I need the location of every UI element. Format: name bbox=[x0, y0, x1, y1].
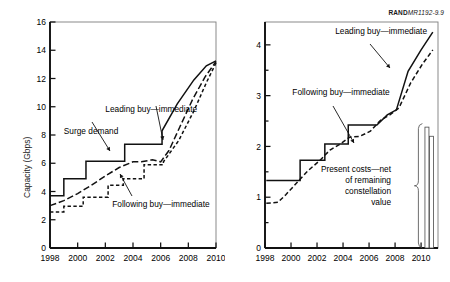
y-tick-label: 8 bbox=[41, 130, 46, 140]
figure-root: RANDMR1192-9.9 Capacity (Gbps) 024681012… bbox=[0, 0, 450, 282]
y-tick-label: 6 bbox=[41, 158, 46, 168]
y-tick-label: 2 bbox=[256, 142, 261, 152]
x-tick-label: 2010 bbox=[412, 253, 431, 263]
y-tick-label: 3 bbox=[256, 91, 261, 101]
chart-annotation: Following buy—immediate bbox=[292, 87, 390, 97]
chart-annotation: Leading buy—immediate bbox=[105, 104, 197, 114]
y-tick-label: 12 bbox=[37, 74, 47, 84]
present-costs-brace bbox=[414, 124, 422, 248]
x-tick-label: 2002 bbox=[308, 253, 327, 263]
x-tick-label: 2000 bbox=[282, 253, 301, 263]
chart-annotation: Surge demand bbox=[64, 126, 119, 136]
chart-panel-cumulative-cost: Cumulative ($ billion FY'98) 01234199820… bbox=[225, 0, 450, 282]
x-tick-label: 2004 bbox=[124, 253, 143, 263]
x-tick-label: 1998 bbox=[256, 253, 275, 263]
plot-frame bbox=[265, 22, 438, 248]
y-tick-label: 14 bbox=[37, 45, 47, 55]
x-tick-label: 2002 bbox=[96, 253, 115, 263]
chart-annotation: value bbox=[371, 197, 391, 207]
present-cost-bar-leading bbox=[425, 127, 429, 248]
chart-panel-capacity: Capacity (Gbps) 024681012141619982000200… bbox=[0, 0, 225, 282]
series-line bbox=[50, 63, 216, 212]
y-tick-label: 10 bbox=[37, 102, 47, 112]
leader-leading-buy-b bbox=[370, 44, 390, 68]
cumulative-cost-plot: 012341998200020022004200620082010Leading… bbox=[225, 0, 450, 282]
chart-annotation: of remaining bbox=[345, 175, 391, 185]
x-tick-label: 2000 bbox=[68, 253, 87, 263]
y-tick-label: 2 bbox=[41, 215, 46, 225]
chart-annotation: Present costs—net bbox=[321, 164, 392, 174]
y-tick-label: 4 bbox=[41, 187, 46, 197]
x-tick-label: 2008 bbox=[386, 253, 405, 263]
chart-annotation: Following buy—immediate bbox=[112, 199, 210, 209]
x-tick-label: 2006 bbox=[151, 253, 170, 263]
x-tick-label: 2008 bbox=[179, 253, 198, 263]
present-cost-bar-following bbox=[429, 136, 433, 248]
y-tick-label: 1 bbox=[256, 192, 261, 202]
y-tick-label: 4 bbox=[256, 40, 261, 50]
x-tick-label: 2010 bbox=[207, 253, 225, 263]
chart-annotation: Leading buy—immediate bbox=[335, 26, 427, 36]
y-tick-label: 16 bbox=[37, 17, 47, 27]
x-tick-label: 2004 bbox=[334, 253, 353, 263]
x-tick-label: 1998 bbox=[41, 253, 60, 263]
chart-annotation: constellation bbox=[345, 186, 392, 196]
capacity-plot: 0246810121416199820002002200420062008201… bbox=[0, 0, 225, 282]
series-line bbox=[266, 32, 433, 180]
x-tick-label: 2006 bbox=[360, 253, 379, 263]
